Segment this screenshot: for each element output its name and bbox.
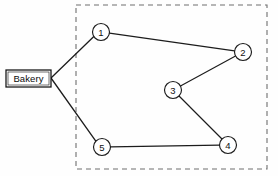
route-edge-4-to-5 [110,145,219,147]
stop-node-label-4: 4 [225,140,230,151]
route-edge-3-to-4 [179,96,222,139]
stop-node-4[interactable]: 4 [220,137,237,154]
route-edge-depot-to-1 [51,37,94,78]
depot-layer: Bakery [6,70,51,87]
route-edge-1-to-2 [109,33,234,51]
stop-node-label-2: 2 [240,47,245,58]
stop-node-2[interactable]: 2 [235,44,252,61]
stop-node-label-3: 3 [170,85,175,96]
stop-node-label-1: 1 [98,27,103,38]
depot-label: Bakery [13,73,43,84]
node-layer: 12345 [93,24,252,156]
stop-node-label-5: 5 [99,142,104,153]
stop-node-5[interactable]: 5 [94,139,111,156]
edge-layer [51,33,236,147]
route-edge-depot-to-5 [51,78,96,141]
route-edge-2-to-3 [180,56,235,86]
stop-node-1[interactable]: 1 [93,24,110,41]
diagram-canvas: Bakery 12345 [0,0,278,176]
route-diagram: Bakery 12345 [0,0,278,176]
stop-node-3[interactable]: 3 [165,82,182,99]
